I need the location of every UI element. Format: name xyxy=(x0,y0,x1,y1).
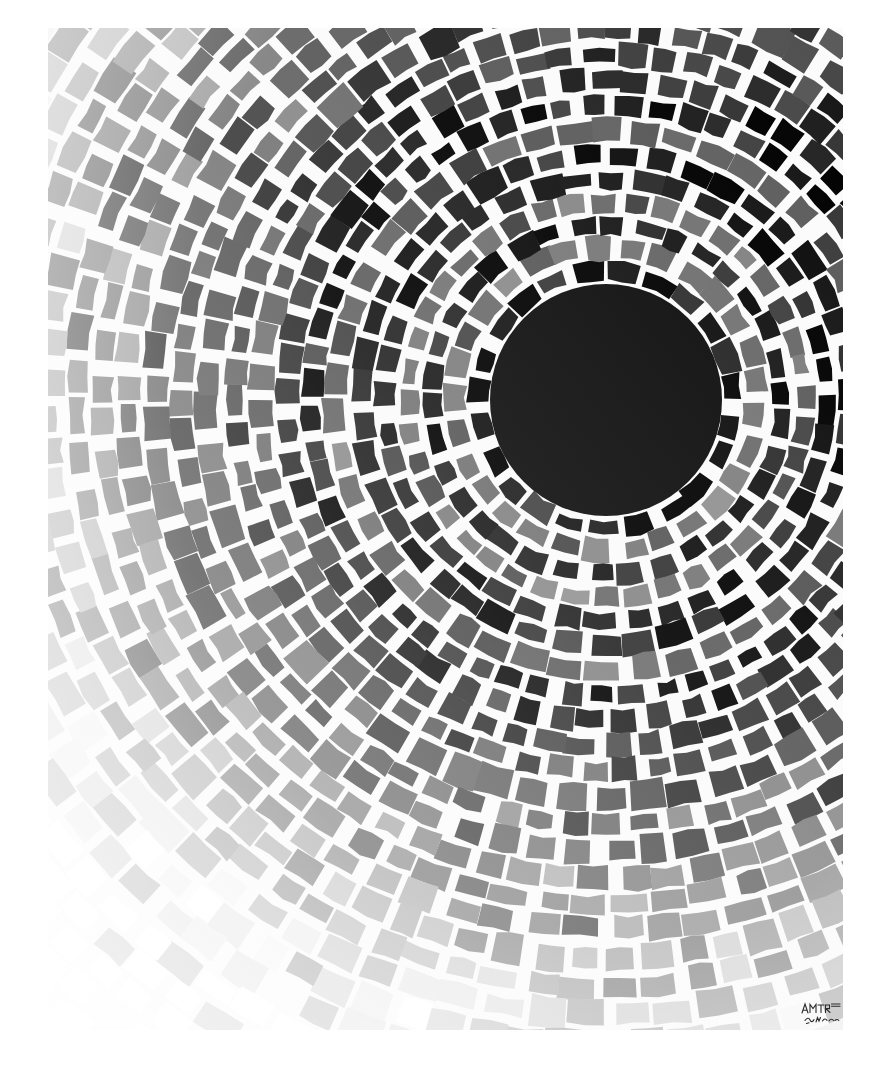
mosaic-canvas xyxy=(48,28,843,1030)
artwork-plate xyxy=(48,28,843,1030)
artwork-page xyxy=(0,0,891,1086)
diagonal-tone-wash xyxy=(48,28,843,1030)
